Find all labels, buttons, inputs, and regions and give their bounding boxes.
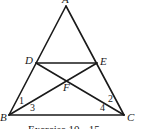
angle-label-3: 3 <box>30 102 35 113</box>
point-label-c: C <box>127 111 135 123</box>
angle-label-2: 2 <box>108 93 113 104</box>
triangle-diagram: A D E F B C 1 3 2 4 Exercise 10 - 15 <box>0 0 141 129</box>
point-label-e: E <box>99 55 107 67</box>
angle-label-1: 1 <box>19 95 24 106</box>
figure-caption: Exercise 10 - 15 <box>28 123 100 129</box>
point-label-a: A <box>61 0 69 5</box>
point-label-d: D <box>24 54 33 66</box>
point-label-b: B <box>0 111 7 123</box>
point-label-f: F <box>62 81 70 93</box>
angle-label-4: 4 <box>100 102 105 113</box>
